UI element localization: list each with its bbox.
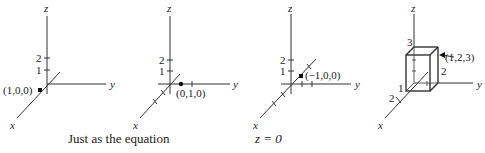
x-axis-label-c: x — [253, 120, 258, 131]
z-tick-1-b: 1 — [159, 66, 165, 77]
axes-fig-b — [140, 16, 230, 118]
y-axis-label-b: y — [233, 79, 238, 90]
x-axis-label-b: x — [133, 120, 138, 131]
z-axis-label-d: z — [411, 3, 415, 14]
axes-fig-c — [260, 14, 351, 118]
y-axis-label-c: y — [355, 79, 360, 90]
point-label-b: (0,1,0) — [176, 88, 205, 99]
box-x2-label-d: 2 — [389, 93, 395, 104]
point-label-d: (1,2,3) — [445, 52, 474, 63]
y-axis-label-d: y — [477, 79, 482, 90]
box-fig-d — [406, 47, 438, 91]
point-label-c: (−1,0,0) — [305, 70, 341, 81]
z-tick-2-b: 2 — [159, 55, 165, 66]
point-label-a: (1,0,0) — [3, 85, 32, 96]
z-tick-2-c: 2 — [280, 55, 286, 66]
x-axis-label-a: x — [10, 120, 15, 131]
z-tick-1-c: 1 — [280, 66, 286, 77]
caption-text: Just as the equation — [68, 132, 169, 146]
axes-fig-d — [385, 14, 473, 118]
z-axis-label-c: z — [288, 3, 292, 14]
caption-equation: z = 0 — [255, 132, 282, 146]
point-fig-a — [38, 88, 42, 92]
box-x1-label-d: 1 — [398, 83, 404, 94]
axes-fig-a — [17, 16, 106, 118]
point-fig-b — [179, 82, 183, 86]
z-tick-2-a: 2 — [36, 53, 42, 64]
x-axis-label-d: x — [378, 120, 383, 131]
box-y-label-d: 2 — [441, 66, 447, 77]
y-axis-label-a: y — [110, 79, 115, 90]
box-z-label-d: 3 — [407, 37, 413, 48]
point-fig-c — [299, 74, 303, 78]
z-axis-label-b: z — [167, 3, 171, 14]
z-axis-label-a: z — [44, 3, 48, 14]
z-tick-1-a: 1 — [36, 65, 42, 76]
